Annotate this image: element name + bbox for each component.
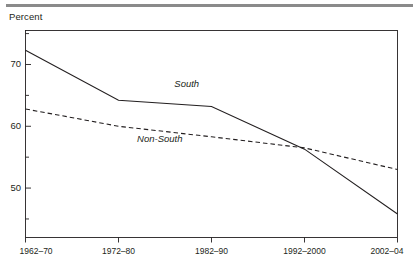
series-line-south: [26, 50, 398, 214]
x-tick-label: 1972–80: [79, 246, 159, 256]
y-tick-label: 50: [3, 182, 21, 193]
y-tick-label: 60: [3, 120, 21, 131]
x-axis-ticks: [26, 238, 398, 243]
chart-figure: Percent 506070 1962–701972–801982–901992…: [0, 0, 419, 264]
x-tick-label: 2002–04: [324, 246, 404, 256]
y-axis-ticks: [26, 34, 32, 219]
series-line-non-south: [26, 109, 398, 170]
data-series-group: [26, 50, 398, 214]
plot-frame: [26, 31, 398, 238]
series-label-south: South: [174, 78, 199, 89]
series-label-non-south: Non-South: [137, 133, 182, 144]
x-tick-label: 1982–90: [172, 246, 252, 256]
y-tick-label: 70: [3, 58, 21, 69]
plot-canvas: [0, 0, 419, 264]
